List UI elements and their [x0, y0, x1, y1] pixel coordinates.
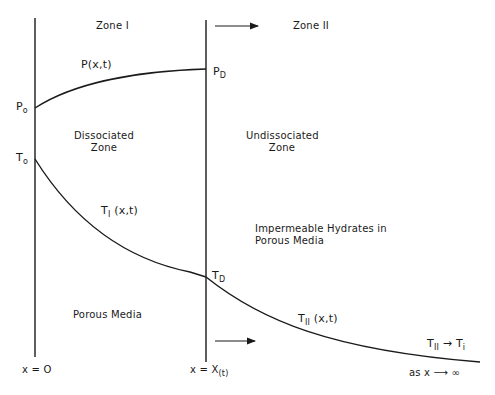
- limit-arrow-icon: →: [443, 337, 452, 350]
- impermeable-hydrates-label: Impermeable Hydrates in Porous Media: [255, 223, 387, 247]
- origin-label: x = O: [22, 364, 52, 376]
- hydrate-dissociation-diagram: Zone I Zone II P(x,t) Po PD Dissociated …: [0, 0, 495, 395]
- front-position-label: x = X(t): [190, 364, 229, 377]
- temperature-limit-label: TII → Ti: [427, 338, 465, 351]
- porous-media-label: Porous Media: [73, 309, 142, 321]
- pressure-curve: [35, 69, 206, 108]
- temperature-zone1-label: TI (x,t): [101, 205, 138, 218]
- diagram-lines: [0, 0, 495, 395]
- temperature-t0-label: To: [16, 152, 28, 165]
- dissociated-zone-label: Dissociated Zone: [73, 130, 135, 154]
- pressure-p0-label: Po: [16, 101, 28, 114]
- temperature-td-label: TD: [212, 270, 225, 283]
- zone1-label: Zone I: [96, 20, 129, 32]
- infinity-limit-label: as x ⟶ ∞: [409, 367, 460, 379]
- zone2-label: Zone II: [293, 20, 329, 32]
- temperature-curve-zone1: [35, 159, 206, 277]
- undissociated-zone-label: Undissociated Zone: [246, 130, 318, 154]
- pressure-pd-label: PD: [213, 66, 226, 79]
- temperature-zone2-label: TII (x,t): [298, 313, 338, 326]
- pressure-curve-label: P(x,t): [81, 59, 112, 71]
